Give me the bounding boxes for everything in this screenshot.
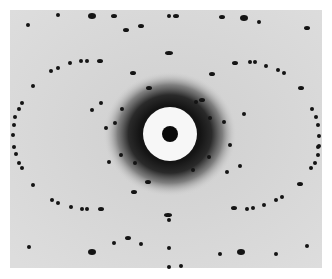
- diffraction-spot: [274, 198, 278, 202]
- diffraction-spot: [219, 15, 225, 19]
- diffraction-spot: [248, 60, 252, 64]
- diffraction-spot: [164, 213, 172, 217]
- diffraction-spot: [20, 101, 24, 105]
- diffraction-spot: [119, 153, 123, 157]
- diffraction-spot: [218, 252, 222, 256]
- diffraction-spot: [262, 203, 266, 207]
- diffraction-spot: [69, 205, 73, 209]
- diffraction-spot: [167, 265, 171, 269]
- diffraction-spot: [165, 51, 173, 55]
- diffraction-spot: [297, 182, 303, 186]
- diffraction-spot: [194, 100, 198, 104]
- diffraction-spot: [113, 121, 117, 125]
- diffraction-spot: [317, 134, 321, 138]
- diffraction-spot: [173, 14, 179, 18]
- diffraction-spot: [240, 15, 248, 21]
- diffraction-spot: [264, 64, 268, 68]
- diffraction-spot: [90, 108, 94, 112]
- diffraction-spot: [179, 264, 183, 268]
- diffraction-spot: [49, 69, 53, 73]
- diffraction-spot: [68, 61, 72, 65]
- diffraction-spot: [111, 14, 117, 18]
- diffraction-spot: [131, 190, 137, 194]
- diffraction-spot: [112, 241, 116, 245]
- diffraction-spot: [88, 13, 96, 19]
- diffraction-spot: [304, 26, 310, 30]
- diffraction-spot: [133, 161, 137, 165]
- diffraction-spot: [31, 183, 35, 187]
- diffraction-spot: [225, 170, 229, 174]
- diffraction-spot: [228, 143, 232, 147]
- diffraction-spot: [17, 107, 21, 111]
- diffraction-spot: [298, 86, 304, 90]
- diffraction-spot: [146, 86, 152, 90]
- diffraction-spot: [245, 207, 249, 211]
- diffraction-spot: [207, 155, 211, 159]
- diffraction-spot: [80, 207, 84, 211]
- diffraction-spot: [276, 68, 280, 72]
- diffraction-spot: [13, 115, 17, 119]
- diffraction-spot: [98, 207, 104, 211]
- diffraction-pattern-image: [0, 0, 332, 279]
- diffraction-spot: [20, 166, 24, 170]
- diffraction-spot: [237, 249, 245, 255]
- diffraction-spot: [85, 207, 89, 211]
- diffraction-spot: [309, 166, 313, 170]
- diffraction-spot: [139, 242, 143, 246]
- diffraction-spot: [14, 152, 18, 156]
- diffraction-spot: [79, 59, 83, 63]
- diffraction-spot: [251, 206, 255, 210]
- diffraction-spot: [314, 115, 318, 119]
- diffraction-spot: [305, 244, 309, 248]
- diffraction-spot: [199, 98, 205, 102]
- diffraction-spot: [232, 61, 238, 65]
- diffraction-spot: [238, 164, 242, 168]
- diffraction-spot: [88, 249, 96, 255]
- diffraction-spot: [56, 13, 60, 17]
- diffraction-spot: [120, 107, 124, 111]
- diffraction-spot: [316, 145, 320, 149]
- diffraction-spot: [85, 59, 89, 63]
- diffraction-spot: [316, 123, 320, 127]
- diffraction-spot: [27, 245, 31, 249]
- diffraction-spot: [167, 218, 171, 222]
- diffraction-spot: [191, 168, 195, 172]
- diffraction-spot: [125, 236, 131, 240]
- diffraction-spot: [167, 246, 171, 250]
- diffraction-spot: [17, 161, 21, 165]
- diffraction-spot: [26, 23, 30, 27]
- diffraction-spot: [11, 133, 15, 137]
- diffraction-spot: [257, 20, 261, 24]
- diffraction-spot: [231, 206, 237, 210]
- diffraction-spot: [130, 71, 136, 75]
- diffraction-spot: [274, 252, 278, 256]
- diffraction-spot: [12, 123, 16, 127]
- diffraction-spot: [138, 24, 144, 28]
- diffraction-spot: [222, 120, 226, 124]
- diffraction-spot: [316, 153, 320, 157]
- diffraction-spot: [313, 161, 317, 165]
- diffraction-spot: [253, 60, 257, 64]
- diffraction-spot: [56, 201, 60, 205]
- diffraction-spot: [104, 126, 108, 130]
- diffraction-spot: [208, 116, 212, 120]
- diffraction-spot: [242, 112, 246, 116]
- diffraction-spot: [145, 180, 151, 184]
- diffraction-spot: [56, 66, 60, 70]
- diffraction-spot: [209, 72, 215, 76]
- diffraction-spot: [99, 101, 103, 105]
- diffraction-spot: [167, 14, 171, 18]
- diffraction-spot: [280, 195, 284, 199]
- diffraction-spot: [12, 145, 16, 149]
- diffraction-spot: [310, 107, 314, 111]
- diffraction-spot: [97, 59, 103, 63]
- diffraction-spot: [123, 28, 129, 32]
- diffraction-spot: [107, 160, 111, 164]
- diffraction-spot: [282, 71, 286, 75]
- diffraction-spot: [50, 198, 54, 202]
- diffraction-spot: [31, 84, 35, 88]
- central-beam-spot: [162, 126, 178, 142]
